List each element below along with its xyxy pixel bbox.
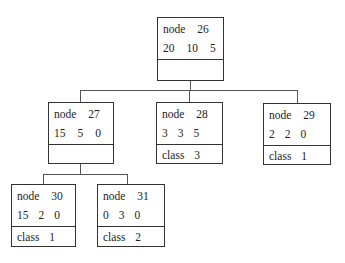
node-divider [157,144,222,145]
node-counts: 030 [103,209,140,222]
node-divider [98,226,164,227]
tree-node-27: node27 1550 [48,102,114,164]
edge-27-31 [127,174,128,184]
node-header: node31 [103,190,149,203]
node-class: class1 [269,150,307,163]
node-counts: 220 [269,128,306,141]
tree-node-26: node26 20105 [157,17,224,81]
node-divider [12,226,75,227]
tree-node-30: node30 1520 class1 [11,184,76,247]
edge-26-28 [189,90,190,102]
tree-node-31: node31 030 class2 [97,184,165,247]
edge-27-30 [43,174,44,184]
edge-27-bus [43,174,128,175]
node-class: class1 [17,231,55,244]
node-header: node29 [269,109,315,122]
edge-26-29 [297,90,298,103]
node-divider [158,59,223,60]
node-class: class3 [162,149,200,162]
node-divider [49,144,113,145]
node-header: node30 [17,190,63,203]
node-counts: 1520 [17,209,60,222]
tree-node-28: node28 335 class3 [156,102,223,164]
node-header: node27 [54,108,100,121]
edge-26-27 [80,90,81,102]
node-class: class2 [103,231,141,244]
node-counts: 1550 [54,127,101,140]
tree-node-29: node29 220 class1 [263,103,331,165]
node-counts: 20105 [163,42,216,55]
node-header: node26 [163,23,209,36]
node-counts: 335 [162,127,199,140]
node-divider [264,145,330,146]
node-header: node28 [162,108,208,121]
